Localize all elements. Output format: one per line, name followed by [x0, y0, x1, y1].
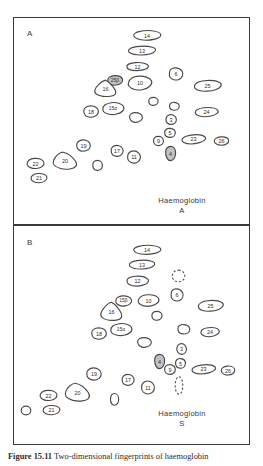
spot-a-23: 23 [181, 132, 206, 146]
spot-a-17: 17 [109, 144, 125, 158]
spot-a-22: 22 [26, 156, 45, 171]
spot-a-12: 12 [125, 60, 150, 73]
spot-b-20: 20 [64, 382, 91, 403]
spot-a-5: 5 [163, 127, 177, 139]
spot-a-3: 3 [164, 113, 178, 126]
spot-a-25: 25 [193, 77, 222, 94]
panel-a-caption-line1: Haemoglobin [158, 196, 206, 205]
panel-b-letter: B [27, 238, 33, 247]
spot-b-6: 6 [169, 287, 185, 303]
spot-a-13: 13 [127, 43, 157, 58]
panel-a-frame: A Haemoglobin A 141312625β1016251815α243… [13, 17, 250, 225]
spot-b-unlabeled-21 [174, 376, 184, 395]
spot-b-24: 24 [200, 325, 220, 339]
figure-caption-text: Two-dimensional fingerprints of haemoglo… [54, 452, 209, 461]
spot-a-unlabeled-25 [91, 159, 104, 172]
spot-a-4: 4 [163, 145, 178, 162]
spot-a-10: 10 [127, 74, 153, 92]
spot-b-unlabeled-29 [20, 405, 32, 416]
spot-a-16: 16 [93, 79, 118, 98]
spot-b-12: 12 [125, 273, 150, 289]
spot-b-19: 19 [85, 366, 103, 382]
panel-a-caption: Haemoglobin A [132, 196, 232, 215]
spot-b-15α: 15α [109, 321, 133, 338]
spot-a-11: 11 [126, 149, 142, 165]
spot-a-unlabeled-8 [147, 96, 160, 107]
figure-caption: Figure 15.11 Two-dimensional fingerprint… [8, 452, 258, 466]
panel-b-caption-line1: Haemoglobin [158, 409, 206, 418]
spot-b-18: 18 [90, 326, 108, 341]
spot-a-24: 24 [194, 105, 219, 119]
spot-a-21: 21 [30, 171, 48, 185]
spot-a-unlabeled-13 [128, 111, 144, 124]
spot-b-unlabeled-14 [136, 336, 153, 349]
spot-b-unlabeled-12 [176, 323, 192, 336]
spot-b-10: 10 [137, 293, 160, 308]
panel-b-caption: Haemoglobin S [132, 409, 232, 428]
spot-a-unlabeled-11 [168, 101, 181, 112]
spot-b-unlabeled-3 [171, 269, 186, 283]
spot-a-14: 14 [132, 27, 162, 44]
figure-caption-label: Figure 15.11 [8, 452, 52, 461]
spot-a-15α: 15α [101, 100, 125, 117]
spot-b-22: 22 [39, 388, 58, 403]
spot-a-20: 20 [52, 151, 78, 171]
spot-a-18: 18 [82, 104, 100, 119]
spot-b-21: 21 [42, 403, 61, 417]
spot-a-26: 26 [213, 135, 230, 147]
spot-a-6: 6 [167, 66, 185, 82]
spot-b-unlabeled-27 [109, 392, 120, 407]
spot-b-9: 9 [163, 363, 177, 376]
spot-b-3: 3 [175, 342, 188, 356]
panel-b-frame: B Haemoglobin S 141312615β1016251815α243… [13, 225, 250, 445]
spot-b-17: 17 [120, 373, 136, 387]
spot-b-25: 25 [197, 297, 224, 314]
spot-b-16: 16 [99, 301, 124, 322]
spot-b-unlabeled-9 [150, 310, 164, 322]
spot-b-23: 23 [191, 362, 216, 376]
spot-b-26: 26 [220, 364, 236, 377]
spot-b-13: 13 [128, 257, 156, 272]
figure-root: A Haemoglobin A 141312625β1016251815α243… [0, 0, 263, 466]
spot-b-11: 11 [140, 379, 156, 396]
spot-b-14: 14 [132, 242, 162, 258]
panel-a-letter: A [27, 29, 33, 38]
panel-b-caption-line2: S [132, 419, 232, 429]
panel-a-caption-line2: A [132, 206, 232, 216]
